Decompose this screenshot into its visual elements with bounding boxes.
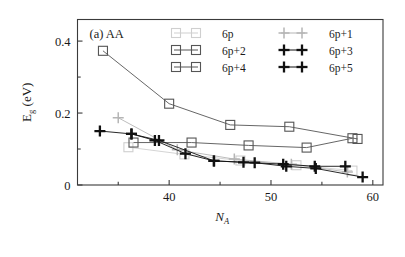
legend-label: 6p+4	[222, 62, 246, 75]
y-axis-label-main: E	[19, 114, 34, 122]
y-axis-label: Eg (eV)	[19, 83, 36, 122]
panel-label: (a) AA	[90, 27, 124, 41]
data-point-square	[98, 46, 107, 55]
figure-container: 40506000.20.4NAEg (eV)(a) AA6p6p+16p+26p…	[0, 0, 405, 257]
x-tick-label: 60	[367, 190, 380, 204]
chart-canvas: 40506000.20.4NAEg (eV)(a) AA6p6p+16p+26p…	[0, 0, 405, 257]
y-tick-label: 0	[64, 179, 70, 193]
legend-label: 6p	[222, 28, 234, 41]
y-tick-label: 0.2	[55, 107, 71, 121]
legend-item-6pplus3[interactable]: 6p+3	[279, 45, 353, 58]
y-axis-label-unit: (eV)	[19, 83, 34, 110]
series-6pplus2	[129, 134, 357, 152]
series-6p	[124, 143, 357, 175]
legend-label: 6p+3	[329, 45, 353, 58]
legend-item-6pplus5[interactable]: 6p+5	[279, 62, 353, 75]
x-axis-label: NA	[214, 209, 230, 226]
y-tick-label: 0.4	[55, 35, 71, 49]
x-tick-label: 40	[163, 190, 176, 204]
x-tick-label: 50	[265, 190, 278, 204]
legend-label: 6p+1	[329, 28, 353, 41]
legend: 6p6p+16p+26p+36p+46p+5	[172, 28, 353, 75]
x-axis-label-sub: A	[223, 216, 230, 226]
legend-item-6pplus2[interactable]: 6p+2	[172, 45, 246, 58]
series-6pplus5	[126, 128, 368, 182]
legend-label: 6p+5	[329, 62, 353, 75]
legend-item-6pplus4[interactable]: 6p+4	[172, 62, 246, 75]
legend-label: 6p+2	[222, 45, 246, 58]
data-point-square	[353, 134, 362, 143]
legend-item-6p[interactable]: 6p	[172, 28, 234, 41]
legend-item-6pplus1[interactable]: 6p+1	[279, 28, 353, 41]
